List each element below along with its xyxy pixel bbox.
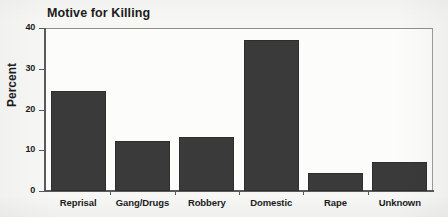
x-label-domestic: Domestic (239, 197, 303, 208)
y-tick-label: 20 (25, 104, 35, 114)
y-tick-mark (39, 110, 45, 111)
x-label-unknown: Unknown (368, 197, 432, 208)
x-tick (175, 190, 176, 195)
y-tick-mark (39, 28, 45, 29)
x-tick (303, 190, 304, 195)
y-tick-label: 30 (25, 63, 35, 73)
x-label-robbery: Robbery (175, 197, 239, 208)
bar-slot (179, 28, 234, 191)
y-tick-mark (39, 150, 45, 151)
y-tick-mark (39, 69, 45, 70)
bar-slot (372, 28, 427, 191)
x-tick (368, 190, 369, 195)
bar-unknown (372, 162, 427, 191)
bar-domestic (244, 40, 299, 191)
x-label-reprisal: Reprisal (46, 197, 110, 208)
bar-slot (115, 28, 170, 191)
y-tick-label: 0 (30, 185, 35, 195)
y-tick-label: 10 (25, 144, 35, 154)
bar-chart-screenshot: Motive for Killing Percent 010203040 Rep… (0, 0, 448, 217)
y-axis-label: Percent (5, 50, 19, 120)
bar-slot (244, 28, 299, 191)
y-tick-label: 40 (25, 22, 35, 32)
y-tick-mark (39, 191, 45, 192)
bar-rape (308, 173, 363, 191)
bar-robbery (179, 137, 234, 191)
x-tick (110, 190, 111, 195)
bar-slot (308, 28, 363, 191)
bar-slot (51, 28, 106, 191)
x-label-rape: Rape (303, 197, 367, 208)
bar-gang-drugs (115, 141, 170, 191)
x-label-gang-drugs: Gang/Drugs (110, 197, 174, 208)
x-tick (239, 190, 240, 195)
chart-title: Motive for Killing (47, 6, 150, 20)
bar-reprisal (51, 91, 106, 191)
bar-series (46, 28, 432, 191)
